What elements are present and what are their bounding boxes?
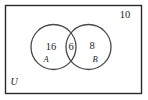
outside-count-label: 10	[120, 9, 131, 20]
set-a-only-count: 16	[46, 41, 57, 52]
set-a-label: A	[42, 54, 49, 64]
universal-set-label: U	[10, 76, 18, 87]
set-b-label: B	[92, 54, 97, 64]
set-b-only-count: 8	[89, 40, 94, 51]
venn-diagram-figure: 10 16 6 8 A B U	[0, 0, 148, 100]
intersection-count: 6	[68, 41, 73, 52]
venn-diagram-canvas: 10 16 6 8 A B U	[0, 0, 148, 100]
